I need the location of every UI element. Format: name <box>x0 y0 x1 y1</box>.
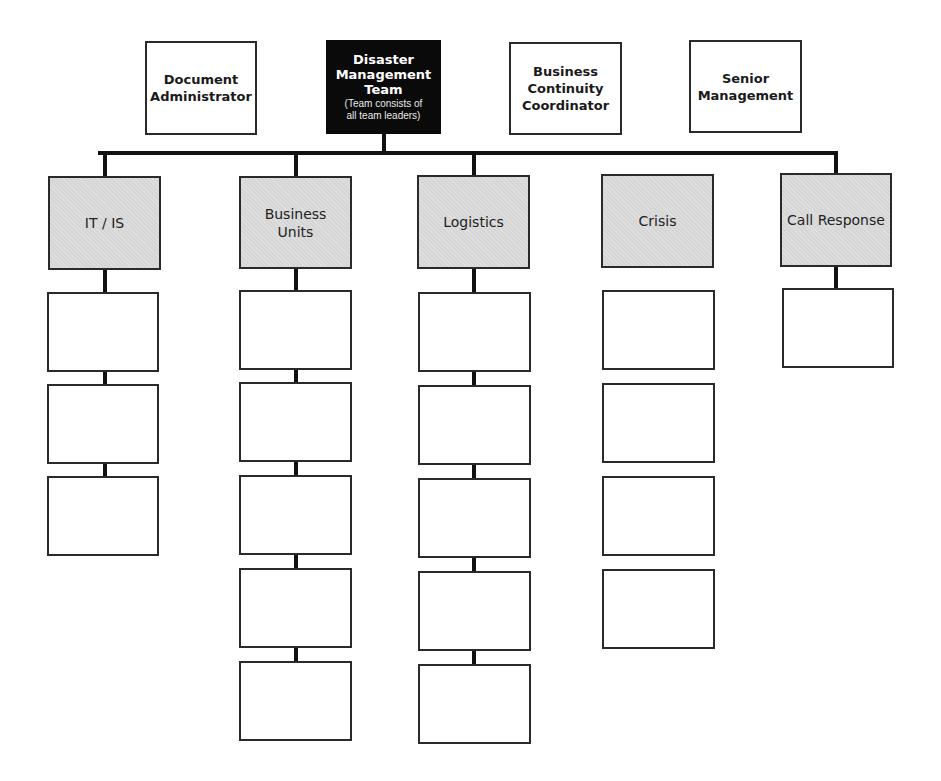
business-units-child-connector-3 <box>294 462 298 475</box>
crisis-team-label: Crisis <box>639 212 677 230</box>
it-is-member-box <box>47 292 159 372</box>
business-units-child-connector-5 <box>294 648 298 661</box>
crisis-member-box <box>602 569 715 649</box>
business-units-team-box: BusinessUnits <box>239 176 352 269</box>
it-is-team-label: IT / IS <box>85 214 124 232</box>
business-continuity-coordinator-label: BusinessContinuityCoordinator <box>522 63 609 114</box>
document-administrator-label: DocumentAdministrator <box>150 71 252 105</box>
crisis-member-box <box>602 290 715 370</box>
crisis-member-box <box>602 383 715 463</box>
logistics-child-connector-3 <box>472 465 476 478</box>
senior-management-label: SeniorManagement <box>698 70 794 104</box>
logistics-member-box <box>418 385 531 465</box>
business-units-member-box <box>239 382 352 462</box>
crisis-member-box <box>602 476 715 556</box>
logistics-child-connector-1 <box>472 269 476 292</box>
disaster-management-team-sublabel: (Team consists ofall team leaders) <box>345 98 423 122</box>
horizontal-bus-line <box>98 151 835 155</box>
business-units-member-box <box>239 290 352 370</box>
call-response-team-label: Call Response <box>787 211 885 229</box>
business-units-member-box <box>239 568 352 648</box>
business-units-member-box <box>239 475 352 555</box>
logistics-member-box <box>418 478 531 558</box>
call-response-child-connector-1 <box>834 267 838 288</box>
it-is-member-box <box>47 476 159 556</box>
business-units-child-connector-2 <box>294 370 298 382</box>
logistics-member-box <box>418 571 531 651</box>
it-is-child-connector-2 <box>103 372 107 384</box>
it-is-child-connector-3 <box>103 464 107 476</box>
logistics-child-connector-5 <box>472 651 476 664</box>
crisis-team-box: Crisis <box>601 174 714 268</box>
it-is-member-box <box>47 384 159 464</box>
logistics-team-label: Logistics <box>443 213 504 231</box>
logistics-child-connector-4 <box>472 558 476 571</box>
business-units-child-connector-1 <box>294 269 298 290</box>
business-continuity-coordinator-box: BusinessContinuityCoordinator <box>509 42 622 135</box>
disaster-management-team-box: DisasterManagementTeam(Team consists ofa… <box>326 40 441 134</box>
business-units-bus-connector <box>294 151 298 176</box>
logistics-child-connector-2 <box>472 372 476 385</box>
logistics-bus-connector <box>472 151 476 175</box>
logistics-team-box: Logistics <box>417 175 530 269</box>
business-units-child-connector-4 <box>294 555 298 568</box>
it-is-bus-connector <box>103 151 107 176</box>
it-is-child-connector-1 <box>103 270 107 292</box>
it-is-team-box: IT / IS <box>48 176 161 270</box>
business-units-member-box <box>239 661 352 741</box>
dmt-connector <box>382 133 386 155</box>
call-response-bus-connector <box>834 151 838 173</box>
senior-management-box: SeniorManagement <box>689 40 802 133</box>
call-response-team-box: Call Response <box>780 173 892 267</box>
document-administrator-box: DocumentAdministrator <box>145 41 257 135</box>
call-response-member-box <box>782 288 894 368</box>
logistics-member-box <box>418 664 531 744</box>
logistics-member-box <box>418 292 531 372</box>
business-units-team-label: BusinessUnits <box>265 205 327 241</box>
disaster-management-team-label: DisasterManagementTeam <box>336 52 432 97</box>
